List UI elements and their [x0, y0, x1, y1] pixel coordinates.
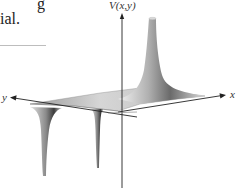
z-axis-arrow [120, 13, 124, 19]
y-axis-arrow [10, 95, 17, 100]
surface-well-right [90, 109, 104, 168]
x-axis-label: x [230, 88, 235, 100]
axis-underline [108, 112, 137, 113]
potential-surface-plot [0, 0, 242, 188]
y-axis-label: y [2, 91, 7, 103]
surface-well-left [30, 107, 62, 176]
x-axis-arrow [220, 93, 227, 98]
z-axis-label: V(x,y) [109, 0, 136, 11]
